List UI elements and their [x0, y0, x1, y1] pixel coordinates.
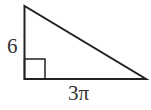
vertical-leg-label: 6 — [7, 34, 18, 58]
right-angle-marker — [25, 59, 46, 79]
triangle-diagram: 6 3π — [0, 0, 151, 110]
horizontal-leg-label: 3π — [68, 81, 90, 105]
right-triangle — [25, 6, 147, 79]
